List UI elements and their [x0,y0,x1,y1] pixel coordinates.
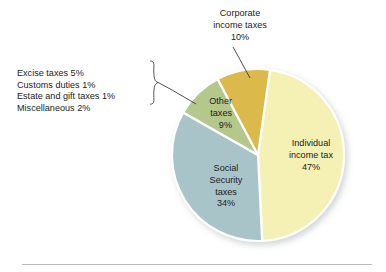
breakdown-item: Estate and gift taxes 1% [17,91,115,103]
slice-label-line: income taxes [188,20,292,32]
slice-label-social-security-taxes: Social Security taxes 34% [191,163,261,210]
slice-label-line: taxes [176,107,232,119]
breakdown-item: Excise taxes 5% [17,68,115,80]
slice-value: 9% [176,119,232,131]
slice-value: 34% [191,198,261,210]
breakdown-item: Miscellaneous 2% [17,103,115,115]
slice-label-other-taxes: Other taxes 9% [176,95,232,132]
slice-label-line: Security [191,175,261,187]
breakdown-item: Customs duties 1% [17,80,115,92]
slice-label-line: income tax [272,150,350,162]
slice-value: 10% [188,32,292,44]
slice-label-corporate-income-taxes: Corporate income taxes 10% [188,8,292,43]
slice-value: 47% [272,162,350,174]
slice-label-line: Individual [272,138,350,150]
slice-label-line: Other [176,95,232,107]
breakdown-brace-icon [151,61,159,104]
other-taxes-breakdown-list: Excise taxes 5% Customs duties 1% Estate… [17,68,115,114]
slice-label-line: Corporate [188,8,292,20]
slice-label-line: taxes [191,187,261,199]
pie-chart-figure: Excise taxes 5% Customs duties 1% Estate… [0,0,386,272]
slice-label-individual-income-tax: Individual income tax 47% [272,138,350,173]
slice-label-line: Social [191,163,261,175]
